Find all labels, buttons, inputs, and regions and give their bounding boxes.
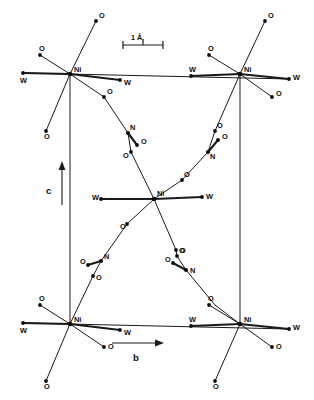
atom-label-o: O	[44, 132, 50, 141]
atom-label-ni: Ni	[74, 315, 81, 324]
atom-label-o: O	[208, 44, 214, 53]
bond-o-n	[104, 97, 128, 133]
atom-label-o: O	[184, 170, 190, 179]
bond-ni-w	[191, 74, 240, 76]
atom-label-o: O	[39, 294, 45, 303]
atom-label-w: W	[189, 315, 196, 324]
atom-dot-ni	[152, 197, 157, 202]
atom-label-w: W	[92, 193, 99, 202]
scale-bar-label: 1 Å	[131, 33, 142, 42]
metal-center-ni-bottom-left	[23, 305, 120, 381]
atom-dot-o	[38, 53, 42, 57]
atom-label-w: W	[293, 73, 300, 82]
atom-dot-n	[184, 268, 188, 272]
atom-dot-w	[287, 327, 291, 331]
crystal-structure-figure: Ni Ni Ni Ni Ni O O W W O O O O W W O O N…	[0, 0, 314, 400]
atom-label-o: O	[179, 246, 185, 255]
atom-dot-o	[94, 19, 98, 23]
b-axis-label: b	[133, 352, 139, 363]
b-axis-arrowhead-icon	[155, 340, 164, 347]
bond-ni-o	[46, 74, 70, 131]
atom-label-w: W	[20, 326, 27, 335]
atom-dot-o	[86, 263, 90, 267]
atom-label-o: O	[96, 273, 102, 282]
metal-center-ni-top-left	[23, 21, 120, 131]
atom-dot-o	[171, 261, 175, 265]
bond-ni-o	[40, 55, 70, 74]
atom-label-w: W	[124, 78, 131, 87]
atom-dot-o	[135, 143, 139, 147]
b-axis-indicator: b	[112, 340, 164, 363]
atom-label-ni: Ni	[157, 189, 164, 198]
atom-label-w: W	[189, 65, 196, 74]
atom-label-w: W	[124, 328, 131, 337]
atom-label-o: O	[213, 382, 219, 391]
atom-dot-w	[118, 78, 122, 82]
atom-label-o: O	[276, 342, 282, 351]
atom-dot-o	[129, 150, 133, 154]
nitro-bridge-lower-right	[173, 250, 240, 324]
scale-bar: 1 Å	[123, 33, 163, 49]
metal-center-ni-center	[101, 152, 202, 250]
bond-ni-o	[154, 199, 176, 250]
atom-dot-ni	[68, 72, 73, 77]
atom-dot-o	[102, 95, 106, 99]
c-axis-indicator: c	[46, 161, 65, 205]
atom-dot-ni	[238, 322, 243, 327]
atom-dot-w	[21, 71, 25, 75]
atom-dot-o	[270, 345, 274, 349]
bond-ni-o	[127, 199, 154, 224]
atom-dot-o	[216, 138, 220, 142]
atom-label-o: O	[222, 132, 228, 141]
atom-label-o: O	[44, 382, 50, 391]
atom-label-n: N	[190, 266, 195, 275]
bond-ni-o	[209, 55, 240, 74]
atom-dot-w	[21, 321, 25, 325]
atom-label-o: O	[80, 257, 86, 266]
atom-label-o: O	[217, 121, 223, 130]
atom-dot-o	[102, 345, 106, 349]
atom-dot-w	[99, 197, 103, 201]
structure-canvas: Ni Ni Ni Ni Ni O O W W O O O O W W O O N…	[0, 0, 314, 400]
atom-dot-w	[200, 195, 204, 199]
atom-label-o: O	[268, 11, 274, 20]
atom-label-o: O	[208, 294, 214, 303]
atom-dot-w	[287, 77, 291, 81]
c-axis-arrowhead-icon	[59, 161, 66, 170]
atom-dot-o	[270, 95, 274, 99]
atom-label-o: O	[107, 87, 113, 96]
c-axis-label: c	[46, 185, 51, 196]
atom-label-o: O	[165, 255, 171, 264]
bond-ni-w	[191, 324, 240, 326]
atom-dot-n	[99, 259, 103, 263]
atom-dot-w	[189, 324, 193, 328]
atom-label-n: N	[104, 252, 109, 261]
atom-label-w: W	[20, 76, 27, 85]
atom-label-ni: Ni	[244, 65, 251, 74]
bond-ni-o	[215, 324, 240, 381]
atom-label-o: O	[39, 44, 45, 53]
bond-ni-o	[131, 152, 154, 199]
atom-dot-o	[174, 248, 178, 252]
atom-dot-o	[207, 53, 211, 57]
atom-label-w: W	[293, 323, 300, 332]
atom-label-ni: Ni	[244, 315, 251, 324]
atom-dot-o	[38, 303, 42, 307]
atom-dot-ni	[68, 322, 73, 327]
atom-dot-o	[263, 19, 267, 23]
bond-ni-o	[46, 324, 70, 381]
atom-dot-w	[189, 74, 193, 78]
atom-label-n: N	[130, 123, 135, 132]
bond-ni-o	[209, 305, 240, 324]
atom-label-o: O	[141, 137, 147, 146]
atom-dot-o	[91, 274, 95, 278]
atom-label-o: O	[99, 11, 105, 20]
atom-label-n: N	[210, 152, 215, 161]
atom-label-ni: Ni	[74, 65, 81, 74]
atom-dot-w	[118, 328, 122, 332]
atom-dot-ni	[238, 72, 243, 77]
atom-label-o: O	[123, 151, 129, 160]
atom-label-o: O	[120, 222, 126, 231]
atom-label-o: O	[276, 89, 282, 98]
atom-dot-o	[207, 303, 211, 307]
